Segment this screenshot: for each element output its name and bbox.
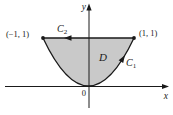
point-dot-right <box>132 36 136 40</box>
point-dot-left <box>41 36 45 40</box>
figure-canvas: y x 0 (−1, 1) (1, 1) D C2 C1 <box>0 0 173 115</box>
x-axis-label: x <box>163 91 169 101</box>
curve-c1-label: C1 <box>126 57 137 70</box>
parabolic-region-figure: y x 0 (−1, 1) (1, 1) D C2 C1 <box>0 0 173 115</box>
origin-label: 0 <box>82 88 86 98</box>
region-d-label: D <box>98 51 107 63</box>
y-axis-label: y <box>81 2 87 12</box>
curve-c1-label-sub: 1 <box>133 62 137 70</box>
y-axis-arrow-icon <box>86 4 91 11</box>
x-axis-arrow-icon <box>162 84 169 89</box>
curve-c2-label: C2 <box>57 23 68 36</box>
point-label-top-right: (1, 1) <box>139 28 158 38</box>
point-label-top-left: (−1, 1) <box>6 29 29 39</box>
curve-c2-label-sub: 2 <box>64 28 68 36</box>
